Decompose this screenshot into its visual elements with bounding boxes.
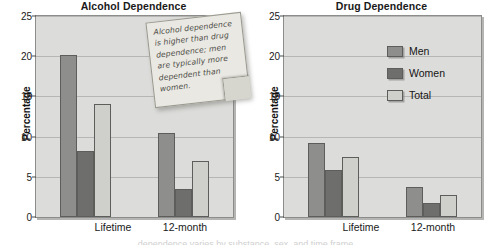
y-tick-label: 20 [21,51,32,62]
y-tick-label: 10 [269,131,280,142]
bar-men-12-month [158,133,175,217]
y-axis-label-drug: Percentage [269,59,280,169]
bar-total-lifetime [342,157,359,217]
x-tick-drug-lifetime: Lifetime [343,221,380,233]
chart-panel-alcohol: Alcohol Dependence Percentage 0510152025… [0,0,241,245]
x-tick-alcohol-lifetime: Lifetime [95,221,132,233]
bar-total-lifetime [94,104,111,217]
legend-swatch-women-icon [387,68,403,79]
y-tick-mark [280,96,284,97]
y-tick-mark [32,136,36,137]
legend-label-women: Women [409,67,445,79]
bar-men-12-month [406,187,423,217]
gridline [36,16,233,17]
legend-label-total: Total [409,89,431,101]
y-tick-label: 15 [269,91,280,102]
figure-caption-partial: dependence varies by substance, sex, and… [0,239,491,245]
y-tick-label: 20 [269,51,280,62]
bar-women-12-month [175,189,192,217]
bar-total-12-month [440,195,457,218]
y-tick-mark [32,96,36,97]
bar-women-lifetime [325,170,342,217]
legend-item-men: Men [387,40,473,62]
legend-label-men: Men [409,45,429,57]
gridline [284,16,481,17]
y-tick-mark [32,56,36,57]
y-tick-mark [32,176,36,177]
legend-item-total: Total [387,84,473,106]
bar-women-lifetime [77,151,94,217]
y-tick-label: 25 [21,11,32,22]
y-tick-mark [280,217,284,218]
x-tick-drug-12month: 12-month [411,221,455,233]
legend-swatch-men-icon [387,46,403,57]
x-tick-alcohol-12month: 12-month [163,221,207,233]
chart-title-alcohol: Alcohol Dependence [30,0,237,13]
y-tick-mark [280,56,284,57]
gridline [284,137,481,138]
legend-item-women: Women [387,62,473,84]
legend-swatch-total-icon [387,90,403,101]
chart-panel-drug: Drug Dependence Percentage 0510152025 Me… [248,0,489,245]
y-tick-mark [32,217,36,218]
y-tick-mark [280,176,284,177]
y-tick-mark [32,16,36,17]
figure-two-bar-charts: Alcohol Dependence Percentage 0510152025… [0,0,491,245]
plot-area-drug: 0510152025 Men Women Total [283,15,482,218]
chart-title-drug: Drug Dependence [278,0,485,13]
y-axis-label-alcohol: Percentage [21,59,32,169]
plot-area-alcohol: 0510152025 [35,15,234,218]
y-tick-mark [280,136,284,137]
bar-men-lifetime [60,55,77,217]
y-tick-label: 15 [21,91,32,102]
bar-men-lifetime [308,143,325,217]
legend-drug: Men Women Total [387,40,473,106]
y-tick-label: 25 [269,11,280,22]
bar-total-12-month [192,161,209,217]
bar-women-12-month [423,203,440,217]
y-tick-label: 10 [21,131,32,142]
y-tick-mark [280,16,284,17]
